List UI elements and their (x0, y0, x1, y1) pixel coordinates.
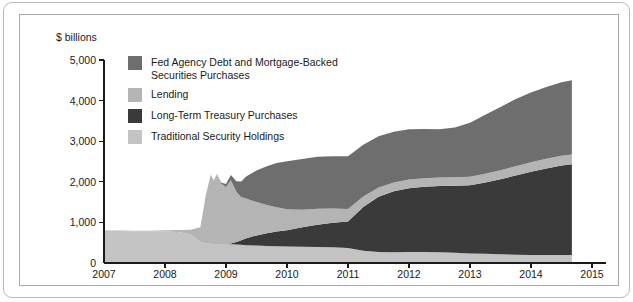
y-axis-label-2000: 2,000 (70, 176, 96, 188)
chart-legend: Fed Agency Debt and Mortgage-Backed Secu… (128, 56, 368, 151)
legend-label-3: Long-Term Treasury Purchases (151, 109, 297, 122)
x-axis-label-2010: 2010 (275, 268, 298, 280)
legend-label-2: Lending (151, 88, 188, 101)
x-axis-label-2011: 2011 (337, 268, 360, 280)
x-axis-label-2012: 2012 (397, 268, 420, 280)
legend-swatch-icon-3 (128, 109, 142, 123)
x-axis-label-2009: 2009 (214, 268, 237, 280)
legend-item-2[interactable]: Lending (128, 88, 368, 102)
legend-swatch-icon-1 (128, 56, 142, 70)
y-axis-label-4000: 4,000 (70, 95, 96, 107)
legend-label-4: Traditional Security Holdings (151, 130, 284, 143)
legend-label-1: Fed Agency Debt and Mortgage-Backed Secu… (151, 56, 368, 81)
x-axis-label-2015: 2015 (580, 268, 603, 280)
y-axis-label-1000: 1,000 (70, 216, 96, 228)
x-axis-label-2014: 2014 (519, 268, 542, 280)
legend-item-1[interactable]: Fed Agency Debt and Mortgage-Backed Secu… (128, 56, 368, 81)
y-axis-label-3000: 3,000 (70, 135, 96, 147)
x-axis-tick-labels: 200720082009201020112012201320142015 (0, 268, 633, 288)
x-axis-label-2013: 2013 (458, 268, 481, 280)
chart-figure: $ billions 01,0002,0003,0004,0005,000 20… (0, 0, 633, 302)
legend-item-4[interactable]: Traditional Security Holdings (128, 130, 368, 144)
legend-swatch-icon-2 (128, 88, 142, 102)
x-axis-label-2008: 2008 (153, 268, 176, 280)
y-axis-label-5000: 5,000 (70, 54, 96, 66)
x-axis-label-2007: 2007 (92, 268, 115, 280)
y-axis-tick-labels: 01,0002,0003,0004,0005,000 (48, 0, 96, 302)
legend-item-3[interactable]: Long-Term Treasury Purchases (128, 109, 368, 123)
legend-swatch-icon-4 (128, 130, 142, 144)
